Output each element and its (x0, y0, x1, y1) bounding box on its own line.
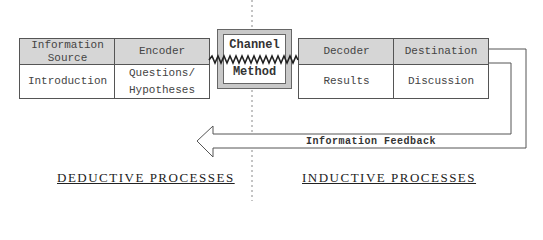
inductive-processes-label: INDUCTIVE PROCESSES (302, 170, 476, 186)
feedback-label: Information Feedback (306, 136, 436, 147)
deductive-processes-label: DEDUCTIVE PROCESSES (57, 170, 235, 186)
zigzag-signal-line (209, 56, 298, 63)
